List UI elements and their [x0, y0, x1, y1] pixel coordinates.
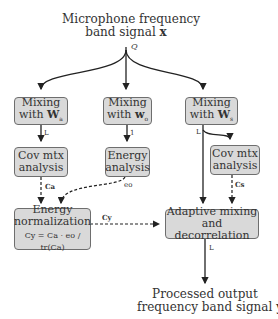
channel-count-label: Q [131, 42, 138, 51]
normalization-formula: Cy = Ca · eo / tr(Ca) [15, 230, 90, 254]
input-label-line2: band signal x [62, 26, 190, 39]
cov-s-box: Cov mtxanalysis [210, 145, 260, 175]
edge-label-mix-s: L [196, 128, 201, 136]
edge-label-adaptive: L [209, 244, 214, 252]
mixing-a-box: Mixing with Wa [14, 97, 68, 125]
edge-label-eo: eo [124, 181, 132, 189]
edge-label-mix-a: L [44, 129, 49, 137]
edge-label-mix-o: 1 [130, 129, 134, 137]
edge-label-ca: Ca [45, 182, 55, 191]
energy-normalization-box: Energynormalization Cy = Ca · eo / tr(Ca… [14, 208, 91, 250]
adaptive-mixing-box: Adaptive mixingand decorrelation [165, 209, 259, 239]
edge-label-cy: Cy [102, 213, 112, 222]
output-label-line2: frequency band signal y [137, 301, 273, 314]
mixing-o-box: Mixing with wo [103, 97, 152, 125]
cov-a-box: Cov mtxanalysis [14, 147, 68, 177]
output-label: Processed output frequency band signal y [137, 288, 273, 314]
mixing-s-box: Mixing with Ws [185, 97, 238, 125]
edge-label-cs: Cs [235, 180, 245, 189]
energy-analysis-box: Energyanalysis [105, 147, 150, 177]
input-label: Microphone frequency band signal x [62, 13, 190, 39]
